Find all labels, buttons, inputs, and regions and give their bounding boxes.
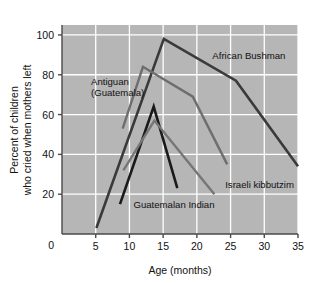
series-label-african-bushman: African Bushman <box>212 50 285 61</box>
y-tick-label: 60 <box>42 109 54 121</box>
x-tick-label: 10 <box>124 240 136 252</box>
y-tick-label: 40 <box>42 148 54 160</box>
y-tick-label: 80 <box>42 69 54 81</box>
chart-container: 020406080100 5101520253035 African Bushm… <box>0 0 314 283</box>
series-label-antiguan-guatemala-line1: Antiguan <box>91 76 129 87</box>
series-label-antiguan-guatemala-line2: (Guatemala) <box>91 87 144 98</box>
y-axis-title-line2: who cried when mothers left <box>21 65 33 197</box>
x-axis-title: Age (months) <box>148 264 211 276</box>
x-tick-label: 25 <box>225 240 237 252</box>
x-tick-label: 15 <box>157 240 169 252</box>
y-tick-label: 0 <box>48 239 54 251</box>
y-axis-title-line1: Percent of children <box>8 86 20 174</box>
y-tick-label: 100 <box>36 29 54 41</box>
series-label-guatemalan-indian: Guatemalan Indian <box>133 199 214 210</box>
crying-percent-line-chart: 020406080100 5101520253035 African Bushm… <box>0 0 314 283</box>
x-tick-label: 20 <box>191 240 203 252</box>
y-tick-label: 20 <box>42 188 54 200</box>
x-tick-label: 30 <box>258 240 270 252</box>
series-label-israeli-kibbutzim: Israeli kibbutzim <box>225 179 294 190</box>
x-tick-label: 5 <box>93 240 99 252</box>
x-tick-label: 35 <box>292 240 304 252</box>
